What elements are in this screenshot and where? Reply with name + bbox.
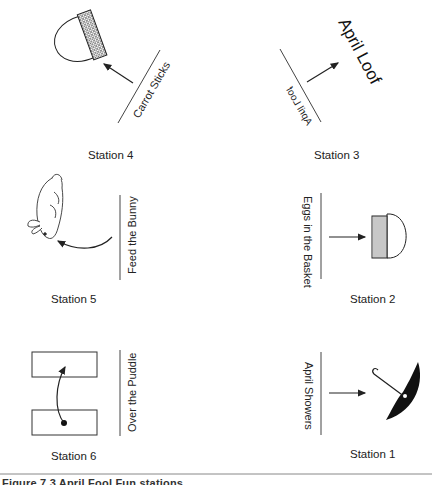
station-label: Station 2 bbox=[350, 293, 395, 305]
sign-text: Over the Puddle bbox=[126, 353, 138, 433]
arrow bbox=[307, 63, 338, 82]
big-mirrored-text: April Loof bbox=[334, 15, 385, 88]
station-1: April Showers Station 1 bbox=[303, 352, 420, 460]
station-label: Station 4 bbox=[88, 149, 134, 161]
umbrella-icon bbox=[373, 362, 420, 420]
arrow bbox=[58, 237, 112, 248]
caption-text: Figure 7.3 April Fool Fun stations bbox=[0, 477, 183, 485]
station-label: Station 1 bbox=[350, 448, 395, 460]
station-4: Carrot Sticks Station 4 bbox=[47, 10, 172, 161]
sign-text: April Showers bbox=[303, 362, 315, 430]
station-6: Over the Puddle Station 6 bbox=[32, 350, 138, 462]
sign-text-mirrored: April Loof bbox=[284, 85, 315, 127]
bunny-icon bbox=[28, 174, 63, 238]
station-label: Station 6 bbox=[51, 450, 96, 462]
station-3: April Loof April Loof Station 3 bbox=[280, 15, 385, 161]
sign-text: Carrot Sticks bbox=[130, 59, 172, 120]
figure-caption: Figure 7.3 April Fool Fun stations bbox=[0, 471, 442, 485]
sign-text: Feed the Bunny bbox=[126, 196, 138, 274]
arrow bbox=[104, 64, 133, 83]
station-2: Eggs in the Basket Station 2 bbox=[302, 193, 406, 305]
mat-top bbox=[32, 352, 97, 377]
station-label: Station 5 bbox=[51, 293, 96, 305]
basket-icon bbox=[47, 10, 106, 71]
station-label: Station 3 bbox=[314, 149, 359, 161]
sign-text: Eggs in the Basket bbox=[302, 196, 314, 288]
station-5: Feed the Bunny Station 5 bbox=[28, 174, 138, 305]
basket-icon bbox=[372, 214, 406, 258]
